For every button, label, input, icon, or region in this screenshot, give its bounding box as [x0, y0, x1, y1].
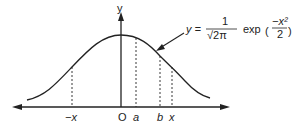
formula-frac-den: √2π: [207, 29, 227, 41]
formula-frac-num: 1: [222, 15, 228, 27]
formula-exp-den: 2: [277, 28, 283, 40]
label-b: b: [157, 111, 163, 123]
formula-func: exp: [243, 23, 261, 35]
formula: y = 1 √2π exp ( −x² 2 ): [185, 15, 292, 41]
formula-exp-num: −x²: [272, 15, 288, 27]
formula-pointer-arrow-icon: [156, 44, 165, 51]
label-x: x: [168, 111, 175, 123]
label-a: a: [133, 111, 139, 123]
origin-label: O: [118, 111, 127, 123]
x-axis-right-arrow-icon: [220, 104, 230, 110]
label-minus-x: −x: [65, 111, 77, 123]
bell-curve: [27, 35, 210, 100]
formula-pointer-arrow: [160, 33, 184, 48]
x-axis-left-arrow-icon: [12, 104, 22, 110]
formula-lhs: y =: [185, 23, 202, 35]
formula-close-paren: ): [288, 25, 292, 37]
formula-open-paren: (: [265, 25, 269, 37]
normal-curve-diagram: y O −x a b x y = 1 √2π exp ( −x² 2 ): [0, 0, 299, 128]
y-axis-label: y: [117, 2, 123, 14]
